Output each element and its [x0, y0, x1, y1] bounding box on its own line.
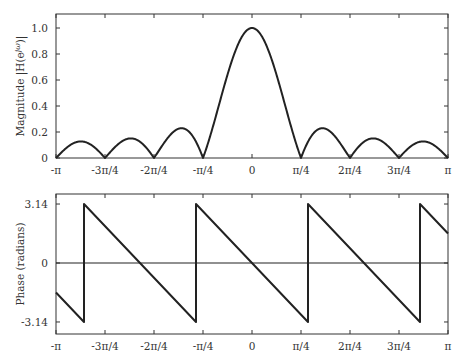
- x-tick-label: 3π/4: [387, 164, 411, 176]
- plot-frame: [56, 14, 448, 158]
- x-tick-label: -π: [51, 340, 62, 352]
- y-axis-label: Phase (radians): [14, 223, 26, 306]
- x-tick-label: 0: [249, 340, 256, 352]
- y-axis-label: Magnitude |H(ejω)|: [13, 36, 29, 137]
- y-tick-label: 0: [41, 152, 48, 164]
- x-tick-label: 2π/4: [338, 340, 362, 352]
- y-tick-label: 0.6: [31, 74, 48, 86]
- frequency-response-chart: 00.20.40.60.81.0-π-3π/4-2π/4-π/40π/42π/4…: [0, 0, 464, 360]
- magnitude-curve: [56, 28, 448, 158]
- y-tick-label: 0.2: [31, 126, 48, 138]
- x-tick-label: π/4: [292, 164, 309, 176]
- magnitude-plot: 00.20.40.60.81.0-π-3π/4-2π/4-π/40π/42π/4…: [13, 14, 452, 176]
- y-tick-label: 1.0: [31, 22, 48, 34]
- x-tick-label: π/4: [292, 340, 309, 352]
- x-tick-label: -2π/4: [140, 164, 168, 176]
- y-tick-label: 0: [41, 257, 48, 269]
- x-tick-label: -3π/4: [91, 340, 119, 352]
- x-tick-label: 2π/4: [338, 164, 362, 176]
- x-tick-label: -2π/4: [140, 340, 168, 352]
- x-tick-label: 0: [249, 164, 256, 176]
- y-tick-label: 0.4: [31, 100, 48, 112]
- x-tick-label: -π/4: [193, 164, 214, 176]
- x-tick-label: π: [445, 340, 452, 352]
- y-tick-label: 0.8: [31, 48, 48, 60]
- x-tick-label: 3π/4: [387, 340, 411, 352]
- y-tick-label: 3.14: [25, 198, 49, 210]
- x-tick-label: -3π/4: [91, 164, 119, 176]
- y-tick-label: -3.14: [21, 316, 48, 328]
- x-tick-label: π: [445, 164, 452, 176]
- x-tick-label: -π/4: [193, 340, 214, 352]
- x-tick-label: -π: [51, 164, 62, 176]
- phase-plot: -3.1403.14-π-3π/4-2π/4-π/40π/42π/43π/4πP…: [14, 194, 452, 352]
